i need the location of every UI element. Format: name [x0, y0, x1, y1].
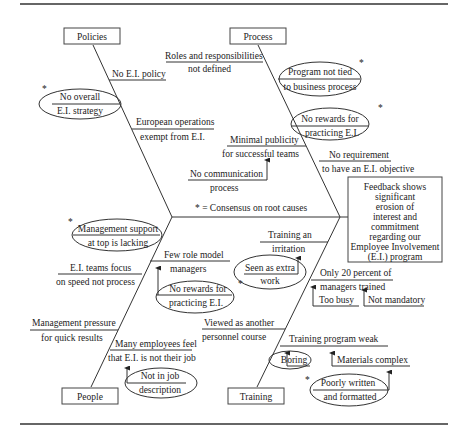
- svg-text:managers: managers: [170, 264, 207, 274]
- cause-no-rewards-process: No rewards for practicing E.I. *: [291, 103, 383, 140]
- svg-text:E.I. strategy: E.I. strategy: [57, 106, 103, 116]
- svg-text:work: work: [260, 276, 280, 286]
- category-label: Policies: [77, 32, 107, 42]
- root-cause-marker: *: [305, 375, 310, 385]
- svg-text:for successful teams: for successful teams: [222, 149, 299, 159]
- cause-boring: Boring: [269, 351, 311, 369]
- category-label: Process: [243, 32, 272, 42]
- effect-line: erosion of: [376, 202, 415, 212]
- svg-text:managers trained: managers trained: [320, 282, 385, 292]
- svg-text:practicing E.I.: practicing E.I.: [169, 298, 223, 308]
- cause-minimal-publicity: Minimal publicity for successful teams: [222, 135, 306, 159]
- svg-text:Poorly written: Poorly written: [321, 378, 376, 388]
- category-policies: Policies: [64, 28, 120, 44]
- category-process: Process: [230, 28, 286, 44]
- svg-text:No rewards for: No rewards for: [169, 284, 227, 294]
- svg-text:Only 20 percent of: Only 20 percent of: [320, 268, 392, 278]
- cause-materials-complex: Materials complex: [332, 353, 410, 366]
- cause-not-their-job: Many employees feel that E.I. is not the…: [108, 339, 197, 363]
- svg-text:Roles and responsibilities: Roles and responsibilities: [165, 51, 263, 61]
- svg-text:Management pressure: Management pressure: [32, 318, 116, 328]
- effect-line: Employee Involvement: [351, 242, 440, 252]
- svg-text:E.I. teams focus: E.I. teams focus: [70, 263, 132, 273]
- svg-text:practicing E.I.: practicing E.I.: [305, 128, 359, 138]
- root-cause-marker: *: [378, 103, 383, 113]
- cause-not-in-job-description: Not in job description: [125, 368, 197, 398]
- cause-not-mandatory: Not mandatory: [364, 290, 426, 306]
- effect-line: interest and: [373, 212, 417, 222]
- svg-text:description: description: [139, 385, 181, 395]
- svg-text:irritation: irritation: [272, 244, 305, 254]
- effect-line: significant: [375, 192, 415, 202]
- cause-no-communication-process: No communication process: [188, 160, 267, 193]
- svg-text:No rewards for: No rewards for: [301, 114, 359, 124]
- svg-text:Training an: Training an: [268, 230, 312, 240]
- cause-roles-not-defined: Roles and responsibilities not defined: [165, 51, 263, 74]
- effect-line: Feedback shows: [364, 182, 427, 192]
- cause-teams-focus-speed: E.I. teams focus on speed not process: [56, 263, 142, 287]
- svg-text:and formatted: and formatted: [323, 392, 376, 402]
- svg-text:European operations: European operations: [136, 117, 215, 127]
- svg-text:No E.I. policy: No E.I. policy: [112, 69, 166, 79]
- cause-no-ei-policy: No E.I. policy: [109, 69, 166, 80]
- svg-text:to have an E.I. objective: to have an E.I. objective: [322, 164, 414, 174]
- category-training: Training: [228, 388, 284, 404]
- effect-line: (E.I.) program: [368, 252, 423, 263]
- svg-text:Not mandatory: Not mandatory: [368, 295, 426, 305]
- cause-management-support: Management support at top is lacking *: [68, 217, 162, 251]
- category-label: Training: [240, 392, 273, 402]
- root-cause-marker: *: [68, 217, 73, 227]
- legend: * = Consensus on root causes: [195, 203, 308, 213]
- cause-european-operations: European operations exempt from E.I.: [132, 117, 215, 142]
- svg-text:exempt from E.I.: exempt from E.I.: [140, 132, 205, 142]
- cause-seen-as-extra-work: Seen as extra work: [234, 255, 306, 289]
- category-people: People: [62, 388, 118, 404]
- svg-text:Too busy: Too busy: [319, 295, 354, 305]
- cause-only-20-percent: Only 20 percent of managers trained: [311, 268, 393, 292]
- cause-program-not-tied: Program not tied to business process *: [278, 58, 364, 96]
- cause-training-program-weak: Training program weak: [280, 334, 388, 346]
- svg-text:Not in job: Not in job: [141, 371, 180, 381]
- root-cause-marker: *: [42, 84, 47, 94]
- svg-text:for quick results: for quick results: [41, 333, 103, 343]
- cause-no-requirement: No requirement to have an E.I. objective: [319, 150, 414, 174]
- svg-text:process: process: [210, 183, 239, 193]
- svg-text:No requirement: No requirement: [329, 150, 389, 160]
- cause-poorly-written: Poorly written and formatted *: [305, 372, 389, 406]
- cause-few-role-models: Few role model managers: [150, 250, 230, 274]
- svg-text:on speed not process: on speed not process: [56, 277, 135, 287]
- svg-text:No overall: No overall: [60, 92, 101, 102]
- svg-text:personnel course: personnel course: [202, 332, 266, 342]
- svg-text:Many employees feel: Many employees feel: [115, 339, 197, 349]
- effect-box: Feedback shows significant erosion of in…: [340, 177, 442, 263]
- svg-text:Materials complex: Materials complex: [337, 355, 408, 365]
- svg-text:Viewed as another: Viewed as another: [204, 318, 275, 328]
- svg-text:Management support: Management support: [78, 224, 159, 234]
- effect-line: regarding our: [369, 232, 421, 242]
- svg-text:Minimal publicity: Minimal publicity: [230, 135, 299, 145]
- svg-text:Seen as extra: Seen as extra: [245, 263, 296, 273]
- cause-viewed-as-personnel-course: Viewed as another personnel course: [202, 318, 285, 342]
- cause-training-irritation: Training an irritation: [260, 230, 328, 254]
- cause-no-overall-ei-strategy: No overall E.I. strategy *: [39, 84, 121, 119]
- svg-text:at top is lacking: at top is lacking: [88, 238, 149, 248]
- effect-line: commitment: [371, 222, 419, 232]
- svg-text:Training program weak: Training program weak: [289, 334, 379, 344]
- cause-no-rewards-people: No rewards for practicing E.I. *: [156, 268, 243, 313]
- category-label: People: [77, 392, 103, 402]
- svg-text:No communication: No communication: [190, 169, 263, 179]
- svg-text:Program not tied: Program not tied: [288, 67, 352, 77]
- root-cause-marker: *: [359, 58, 364, 68]
- cause-management-pressure: Management pressure for quick results: [30, 318, 118, 343]
- svg-text:Few role model: Few role model: [164, 250, 224, 260]
- fishbone-diagram: Policies Process People Training Feedbac…: [0, 0, 470, 441]
- svg-text:to business process: to business process: [284, 82, 357, 92]
- svg-text:not defined: not defined: [188, 64, 231, 74]
- svg-text:Boring: Boring: [281, 355, 308, 365]
- svg-text:that E.I. is not their job: that E.I. is not their job: [108, 353, 196, 363]
